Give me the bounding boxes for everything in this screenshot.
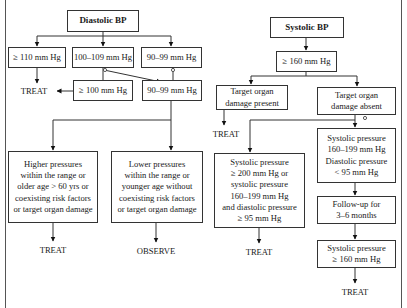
target-organ-damage-present-box: Target organ damage present	[216, 85, 288, 110]
diastolic-100-109-label: 100–109 mm Hg	[74, 52, 132, 63]
higher-pressures-text: Higher pressures within the range or old…	[13, 159, 92, 215]
treat-label-combined: TREAT	[246, 247, 273, 257]
systolic-bp-title: Systolic BP	[285, 22, 328, 33]
treat-label-damage-present: TREAT	[213, 129, 240, 139]
diastolic-100-109-box: 100–109 mm Hg	[72, 47, 134, 68]
damage-absent-text: Target organ damage absent	[331, 90, 382, 113]
target-organ-damage-absent-box: Target organ damage absent	[317, 87, 396, 115]
treat-label-final: TREAT	[342, 287, 369, 297]
diastolic-ge110-label: ≥ 110 mm Hg	[13, 52, 61, 63]
treat-label-diastolic-high: TREAT	[21, 86, 48, 96]
diastolic-ge100-box: ≥ 100 mm Hg	[73, 80, 133, 101]
lower-pressures-box: Lower pressures within the range or youn…	[111, 151, 203, 223]
followup-text: Follow-up for 3–6 months	[333, 199, 381, 222]
diastolic-ge110-box: ≥ 110 mm Hg	[8, 47, 66, 68]
systolic-moderate-text: Systolic pressure 160–199 mm Hg Diastoli…	[326, 133, 388, 178]
observe-label: OBSERVE	[137, 246, 175, 256]
diastolic-90-99-label: 90–99 mm Hg	[147, 52, 197, 63]
damage-present-text: Target organ damage present	[225, 86, 279, 109]
systolic-recheck-box: Systolic pressure ≥ 160 mm Hg	[317, 240, 396, 268]
lower-pressures-text: Lower pressures within the range or youn…	[117, 159, 196, 215]
diastolic-ge100-label: ≥ 100 mm Hg	[79, 85, 127, 96]
diastolic-90-99-box: 90–99 mm Hg	[141, 47, 202, 68]
systolic-ge160-box: ≥ 160 mm Hg	[276, 51, 337, 72]
followup-box: Follow-up for 3–6 months	[317, 196, 396, 224]
systolic-high-or-combined-box: Systolic pressure ≥ 200 mm Hg or systoli…	[214, 153, 305, 228]
treat-label-higher: TREAT	[40, 245, 67, 255]
diastolic-90-99-followup-box: 90–99 mm Hg	[142, 80, 202, 101]
systolic-bp-box: Systolic BP	[270, 17, 344, 38]
diastolic-90-99-followup-label: 90–99 mm Hg	[147, 85, 197, 96]
higher-pressures-box: Higher pressures within the range or old…	[8, 151, 98, 223]
diastolic-bp-title: Diastolic BP	[79, 15, 126, 26]
systolic-moderate-box: Systolic pressure 160–199 mm Hg Diastoli…	[317, 128, 396, 183]
systolic-high-or-combined-text: Systolic pressure ≥ 200 mm Hg or systoli…	[222, 157, 296, 225]
systolic-recheck-text: Systolic pressure ≥ 160 mm Hg	[327, 243, 385, 266]
systolic-ge160-label: ≥ 160 mm Hg	[283, 56, 331, 67]
diastolic-bp-box: Diastolic BP	[67, 10, 139, 32]
